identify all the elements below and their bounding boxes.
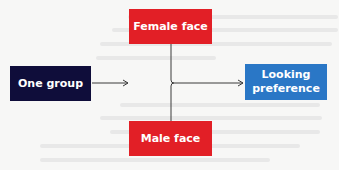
- node-looking-preference-label-line-2: preference: [252, 82, 320, 96]
- node-male-face-label: Male face: [141, 132, 201, 146]
- node-one-group-label: One group: [18, 77, 83, 91]
- node-male-face: Male face: [129, 121, 212, 156]
- bracket-bump: [171, 80, 174, 86]
- node-looking-preference-label-line-1: Looking: [262, 68, 311, 82]
- node-female-face: Female face: [129, 9, 212, 44]
- node-female-face-label: Female face: [133, 20, 208, 34]
- node-looking-preference: Looking preference: [245, 64, 327, 100]
- node-one-group: One group: [10, 66, 91, 101]
